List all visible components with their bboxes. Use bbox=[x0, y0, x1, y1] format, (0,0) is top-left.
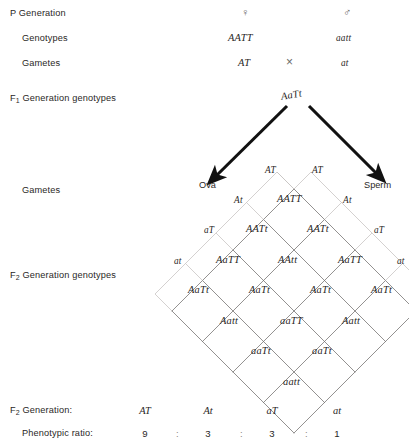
f2-phenotype-gamete-1: At bbox=[194, 406, 222, 416]
punnett-cell: aaTt bbox=[251, 346, 271, 356]
punnett-cell: aatt bbox=[283, 377, 300, 387]
phenotypic-ratio-value-3: 1 bbox=[323, 429, 351, 439]
f2-phenotype-gamete-0: AT bbox=[131, 406, 159, 416]
sperm-gamete-1: At bbox=[343, 196, 352, 205]
ratio-separator: : bbox=[240, 429, 243, 439]
ova-label: Ova bbox=[199, 181, 216, 190]
arrow-to-ova-icon bbox=[214, 106, 287, 178]
sperm-gamete-2: aT bbox=[374, 226, 384, 235]
ova-gamete-2: aT bbox=[204, 226, 214, 235]
phenotypic-ratio-value-1: 3 bbox=[194, 429, 222, 439]
phenotypic-ratio-value-2: 3 bbox=[258, 429, 286, 439]
punnett-cell: AAtt bbox=[278, 255, 297, 265]
punnett-cell: aaTt bbox=[312, 346, 332, 356]
punnett-cell: AaTT bbox=[216, 255, 240, 265]
ova-gamete-1: At bbox=[234, 196, 243, 205]
figure-canvas: P Generation Genotypes Gametes F1 Genera… bbox=[0, 0, 409, 441]
punnett-cell: AaTT bbox=[338, 255, 362, 265]
punnett-cell: aaTT bbox=[280, 316, 303, 326]
ova-gamete-0: AT bbox=[265, 166, 276, 175]
punnett-cell: AATt bbox=[246, 224, 268, 234]
f2-phenotype-gamete-3: at bbox=[323, 406, 351, 416]
punnett-cell: Aatt bbox=[342, 316, 360, 326]
punnett-cell: AATT bbox=[277, 194, 302, 204]
ratio-separator: : bbox=[305, 429, 308, 439]
phenotypic-ratio-value-0: 9 bbox=[131, 429, 159, 439]
punnett-cell: Aatt bbox=[220, 316, 238, 326]
punnett-cell: AaTt bbox=[310, 285, 331, 295]
punnett-cell: AaTt bbox=[249, 285, 270, 295]
punnett-cell: AATt bbox=[307, 224, 329, 234]
ratio-separator: : bbox=[176, 429, 179, 439]
sperm-gamete-0: AT bbox=[312, 166, 323, 175]
ova-gamete-3: at bbox=[174, 257, 182, 266]
punnett-cell: AaTt bbox=[188, 285, 209, 295]
sperm-label: Sperm bbox=[364, 181, 391, 190]
punnett-square-diagram bbox=[0, 0, 409, 441]
f2-phenotype-gamete-2: aT bbox=[258, 406, 286, 416]
punnett-cell: AaTt bbox=[371, 285, 392, 295]
sperm-gamete-3: at bbox=[397, 257, 405, 266]
